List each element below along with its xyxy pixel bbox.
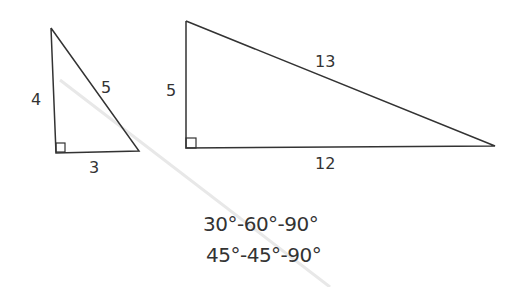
right-angle-marker [56, 143, 65, 152]
side-label-4: 4 [31, 92, 41, 108]
side-label-5-hyp: 5 [101, 80, 111, 96]
right-angle-marker [186, 138, 196, 148]
side-label-3: 3 [89, 160, 99, 176]
side-label-13: 13 [315, 54, 335, 70]
special-triangle-45-45-90: 45°-45°-90° [206, 245, 321, 265]
side-label-12: 12 [315, 156, 335, 172]
side-label-5: 5 [166, 83, 176, 99]
special-triangle-30-60-90: 30°-60°-90° [203, 214, 318, 234]
triangle-3-4-5 [51, 28, 139, 153]
triangle-5-12-13 [186, 21, 495, 148]
